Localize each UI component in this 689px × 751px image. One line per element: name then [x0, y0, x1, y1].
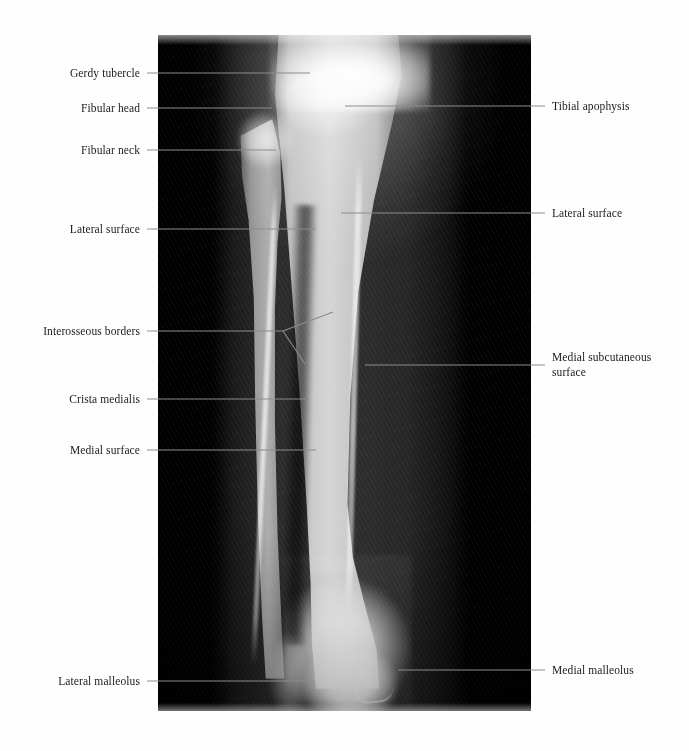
label-lateral-surface-left: Lateral surface — [70, 222, 140, 237]
radiograph-panel — [158, 35, 531, 711]
anatomical-figure: Gerdy tubercleFibular headFibular neckLa… — [0, 0, 689, 751]
film-vignette — [158, 35, 531, 711]
label-crista-medialis: Crista medialis — [69, 392, 140, 407]
label-tibial-apophysis: Tibial apophysis — [552, 99, 630, 114]
label-gerdy-tubercle: Gerdy tubercle — [70, 66, 140, 81]
label-lateral-surface-right: Lateral surface — [552, 206, 622, 221]
label-interosseous-borders: Interosseous borders — [43, 324, 140, 339]
label-medial-subcutaneous-surface: Medial subcutaneous surface — [552, 350, 651, 379]
label-medial-surface: Medial surface — [70, 443, 140, 458]
film-edge-top — [158, 35, 531, 45]
radiograph-image — [158, 35, 531, 711]
label-fibular-neck: Fibular neck — [81, 143, 140, 158]
label-fibular-head: Fibular head — [81, 101, 140, 116]
film-edge-bottom — [158, 703, 531, 711]
label-lateral-malleolus: Lateral malleolus — [58, 674, 140, 689]
label-medial-malleolus: Medial malleolus — [552, 663, 634, 678]
